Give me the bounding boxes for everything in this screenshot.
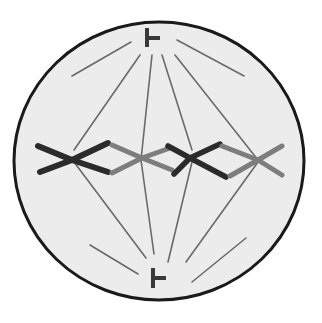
metaphase-cell-diagram: Cell in metaphase [0,0,322,323]
diagram-canvas [0,0,322,323]
